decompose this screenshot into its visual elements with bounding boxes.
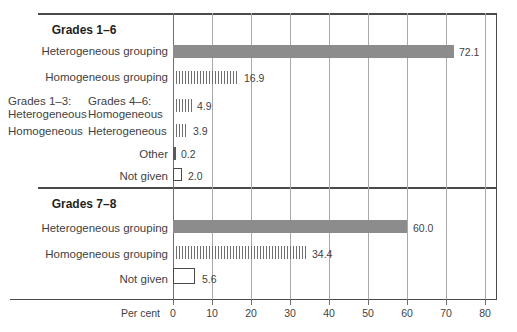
bar-value-0-2: 0.2	[181, 148, 196, 160]
row-label-other: Other	[0, 148, 168, 161]
axis-label-70: 70	[431, 307, 461, 319]
section-heading-grades-7-8: Grades 7–8	[0, 197, 168, 211]
axis-label-0: 0	[158, 307, 188, 319]
axis-label-20: 20	[236, 307, 266, 319]
axis-tick-60	[407, 299, 408, 305]
bar-hetero-grouping-g78	[173, 220, 407, 233]
heterogeneous-text-a: Heterogeneous	[8, 108, 87, 120]
bar-value-60-0: 60.0	[413, 222, 433, 234]
axis-tick-80	[485, 299, 486, 305]
axis-tick-30	[290, 299, 291, 305]
bar-not-given-g16	[173, 168, 182, 181]
axis-tick-0	[173, 299, 174, 305]
grades-4-6-text: Grades 4–6:	[88, 95, 151, 107]
axis-tick-70	[446, 299, 447, 305]
homogeneous-text-b: Homogeneous	[88, 108, 163, 120]
row-label-col-a: Grades 1–3: Heterogeneous	[8, 95, 88, 120]
axis-tick-20	[251, 299, 252, 305]
axis-label-50: 50	[353, 307, 383, 319]
x-axis-ticks	[0, 299, 517, 307]
bar-value-34-4: 34.4	[312, 248, 332, 260]
row-label-homo-grouping-g78: Homogeneous grouping	[0, 248, 168, 261]
row-label-hetero-grouping-g16: Heterogeneous grouping	[0, 45, 168, 58]
bar-value-homo-grouping-g16: 16.9	[244, 72, 264, 84]
bar-grades13-hetero-grades46-homo	[173, 99, 192, 112]
row-label-col-b: Grades 4–6: Homogeneous	[88, 95, 168, 120]
axis-tick-40	[329, 299, 330, 305]
bar-homo-hetero	[173, 124, 188, 137]
bar-homo-grouping-g78	[173, 246, 307, 259]
x-axis-caption: Per cent	[100, 307, 160, 319]
bar-hetero-grouping-g16	[173, 45, 454, 58]
gridline-80	[485, 13, 486, 299]
bar-not-given-g78	[173, 268, 195, 284]
row-label-hetero-grouping-g78: Heterogeneous grouping	[0, 222, 168, 235]
axis-tick-50	[368, 299, 369, 305]
row-label-homo-hetero: Homogeneous Heterogeneous	[8, 125, 168, 138]
bar-chart: Grades 1–6 Heterogeneous grouping 72.1 H…	[0, 0, 517, 332]
bar-value-3-9: 3.9	[193, 125, 208, 137]
bar-homo-grouping-g16	[173, 71, 239, 84]
bar-value-5-6: 5.6	[202, 273, 217, 285]
section-heading-grades-1-6: Grades 1–6	[0, 23, 168, 37]
bar-value-2-0: 2.0	[188, 170, 203, 182]
heterogeneous-text-b: Heterogeneous	[88, 125, 168, 138]
axis-label-80: 80	[470, 307, 500, 319]
bar-other	[173, 147, 176, 160]
bar-value-hetero-grouping-g16: 72.1	[459, 46, 479, 58]
homogeneous-text-a: Homogeneous	[8, 125, 88, 138]
axis-label-60: 60	[392, 307, 422, 319]
axis-label-10: 10	[197, 307, 227, 319]
grades-1-3-text: Grades 1–3:	[8, 95, 71, 107]
row-label-not-given-g78: Not given	[0, 273, 168, 286]
axis-label-30: 30	[275, 307, 305, 319]
row-label-homo-grouping-g16: Homogeneous grouping	[0, 71, 168, 84]
axis-label-40: 40	[314, 307, 344, 319]
row-label-not-given-g16: Not given	[0, 170, 168, 183]
bar-value-4-9: 4.9	[197, 100, 212, 112]
row-label-grades13-hetero-grades46-homo: Grades 1–3: Heterogeneous Grades 4–6: Ho…	[8, 95, 168, 120]
axis-tick-10	[212, 299, 213, 305]
